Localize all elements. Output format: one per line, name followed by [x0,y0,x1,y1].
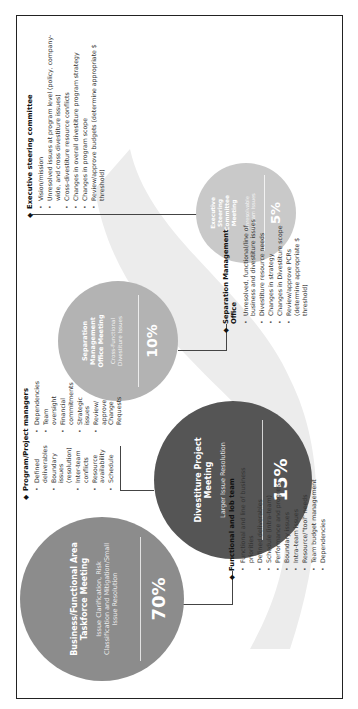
note-program-managers: ◆Program/Project managers Defined delive… [22,381,124,491]
list-item: Cross-divestiture resource conflicts [63,29,71,201]
percent-label: 70% [148,517,169,681]
list-item: Intra-team issues [292,441,300,563]
list-item: Review/ approve Change Requests [92,381,122,425]
list-item: Changes in Divestiture scope [276,214,284,316]
note-heading: ◆Separation Management Office [222,214,239,324]
list-item: Vision/mission [37,29,45,201]
list-item: Unresolved, functional/line of business … [242,214,257,316]
list-item: Inter-team conflicts [74,441,89,483]
list-item: Changes in overall divestiture program s… [72,29,80,201]
note-heading: ◆Functional and lob team [228,441,236,571]
connector-10 [178,350,226,351]
list-item: Resource availability [91,441,106,483]
list-item: Changes in strategy [267,214,275,316]
separation-list: Unresolved, functional/line of business … [242,214,309,324]
list-item: Boundary issues [283,441,291,563]
circle-subtitle: Issue Clarification, Risk Classification… [96,517,119,681]
list-item: Schedule (intra-team) [265,441,273,563]
list-item: Changes in program scope [81,29,89,201]
list-item: Team oversight [42,381,57,425]
list-item: Strategic issues [76,381,91,425]
program-list-col1: Defined deliverables Boundary issues (re… [33,441,124,491]
diamond-icon: ◆ [22,495,31,500]
connector-15 [120,490,154,491]
circle-title: Divestiture Project Meeting [194,401,213,559]
circle-subtitle: Larger Issue Resolution [220,401,228,559]
list-item: Divestiture resource needs [258,214,266,316]
list-item: Dependencies [319,441,327,563]
list-item: Review/approve PCRs (determine appropria… [285,214,308,316]
note-functional-team: ◆Functional and lob team Functional and … [228,441,328,571]
list-item: Performance and progress [274,441,282,563]
diamond-icon: ◆ [228,575,237,580]
list-item: Resource/"tool" needs [301,441,309,563]
executive-list: Vision/mission Unresolved issues at prog… [37,29,105,209]
note-heading: ◆Executive steering committee [26,29,34,209]
diamond-icon: ◆ [222,328,231,333]
list-item: Boundary issues (resolution) [50,441,73,483]
circle-divider [138,295,139,386]
diagram-canvas: Business/Functional Area Taskforce Meeti… [0,0,358,709]
connector-70 [180,604,232,605]
circle-title: Business/Functional Area Taskforce Meeti… [70,517,89,681]
list-item: Team budget management [310,441,318,563]
list-item: Functional and line of business prioriti… [239,441,254,563]
program-list-col2: Dependencies Team oversight Financial co… [33,381,124,433]
list-item: Defined deliverables [256,441,264,563]
list-item: Financial commitments [59,381,74,425]
note-separation-office: ◆Separation Management Office Unresolved… [222,214,310,324]
list-item: Review/approve budgets (determine approp… [90,29,105,201]
list-item: Defined deliverables [33,441,48,483]
list-item: Dependencies [33,381,41,425]
functional-list: Functional and line of business prioriti… [239,441,327,571]
note-heading: ◆Program/Project managers [22,381,30,491]
diamond-icon: ◆ [26,213,35,218]
circle-divider [140,537,141,662]
circle-70-percent: Business/Functional Area Taskforce Meeti… [20,517,184,681]
list-item: Schedule [107,441,115,483]
note-executive-committee: ◆Executive steering committee Vision/mis… [26,29,107,209]
list-item: Unresolved issues at program level (poli… [46,29,61,201]
percent-label: 10% [144,281,160,401]
connector-5 [32,214,200,215]
